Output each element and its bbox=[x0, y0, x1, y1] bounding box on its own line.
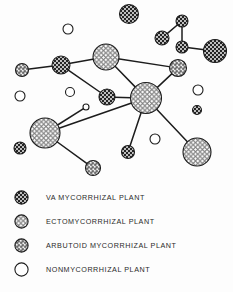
network-edge bbox=[27, 66, 53, 69]
network-node-none bbox=[15, 91, 25, 101]
network-node-ecto bbox=[131, 83, 162, 114]
network-node-ecto bbox=[30, 118, 60, 148]
network-node-arbutoid bbox=[170, 60, 187, 77]
legend-item-va: VA MYCORRHIZAL PLANT bbox=[14, 188, 145, 206]
network-edge bbox=[187, 48, 205, 50]
legend-swatch-ecto-icon bbox=[14, 214, 29, 229]
network-node-none bbox=[66, 88, 75, 97]
mycorrhizal-network-figure: VA MYCORRHIZAL PLANTECTOMYCORRHIZAL PLAN… bbox=[0, 0, 233, 292]
network-edge bbox=[167, 24, 179, 34]
network-node-va bbox=[176, 15, 188, 27]
network-node-none bbox=[83, 104, 89, 110]
legend-swatch-none-icon bbox=[14, 262, 29, 277]
network-node-va bbox=[204, 40, 227, 63]
legend-item-none: NONMYCORRHIZAL PLANT bbox=[14, 260, 150, 278]
legend-swatch-va-icon bbox=[14, 190, 29, 205]
network-node-arbutoid bbox=[16, 64, 29, 77]
legend-item-ecto: ECTOMYCORRHIZAL PLANT bbox=[14, 212, 155, 230]
network-edge bbox=[114, 66, 135, 88]
network-edge bbox=[156, 109, 188, 143]
legend-swatch-arbutoid-icon bbox=[14, 238, 29, 253]
legend-label: ECTOMYCORRHIZAL PLANT bbox=[46, 217, 155, 226]
network-node-none bbox=[193, 85, 203, 95]
network-node-va bbox=[52, 56, 70, 74]
network-node-va bbox=[99, 89, 115, 105]
network-edge bbox=[130, 112, 142, 147]
network-edge bbox=[69, 59, 94, 64]
network-edge bbox=[57, 108, 84, 125]
network-node-va bbox=[120, 5, 139, 24]
legend-label: VA MYCORRHIZAL PLANT bbox=[46, 193, 145, 202]
network-node-va bbox=[176, 41, 188, 53]
network-node-none bbox=[63, 24, 73, 34]
legend: VA MYCORRHIZAL PLANTECTOMYCORRHIZAL PLAN… bbox=[0, 186, 233, 292]
legend-item-arbutoid: ARBUTOID MYCORRHIZAL PLANT bbox=[14, 236, 177, 254]
legend-label: NONMYCORRHIZAL PLANT bbox=[46, 265, 150, 274]
network-edge bbox=[56, 141, 87, 164]
network-node-va bbox=[193, 106, 202, 115]
network-diagram bbox=[0, 0, 233, 185]
network-edge bbox=[157, 73, 173, 88]
network-node-va bbox=[122, 146, 135, 159]
network-edge bbox=[118, 59, 171, 67]
network-node-va bbox=[14, 142, 26, 154]
node-layer bbox=[14, 5, 227, 176]
network-edge bbox=[58, 103, 132, 129]
network-node-va bbox=[155, 31, 169, 45]
network-node-ecto bbox=[183, 138, 211, 166]
legend-label: ARBUTOID MYCORRHIZAL PLANT bbox=[46, 241, 177, 250]
network-node-ecto bbox=[93, 44, 119, 70]
network-node-none bbox=[150, 134, 160, 144]
network-node-arbutoid bbox=[86, 161, 101, 176]
